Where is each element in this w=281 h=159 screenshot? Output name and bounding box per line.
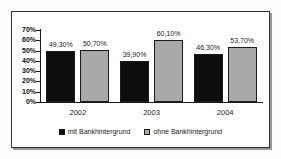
y-axis-tick bbox=[36, 40, 40, 41]
x-axis-category-label-2003: 2003 bbox=[115, 108, 189, 117]
bar-2003-series1 bbox=[154, 40, 183, 102]
bar-2004-series0 bbox=[194, 54, 223, 102]
legend-label: ohne Bankhintergrund bbox=[153, 128, 222, 136]
y-axis-tick-label: 10% bbox=[6, 88, 36, 95]
bar-value-label: 50,70% bbox=[76, 40, 113, 48]
bar-value-label: 46,30% bbox=[190, 44, 227, 52]
chart-legend: mit Bankhintergrundohne Bankhintergrund bbox=[0, 128, 281, 136]
legend-label: mit Bankhintergrund bbox=[68, 128, 131, 136]
y-axis-tick bbox=[36, 61, 40, 62]
legend-item-0[interactable]: mit Bankhintergrund bbox=[59, 128, 131, 136]
x-axis-category-label-2002: 2002 bbox=[41, 108, 115, 117]
legend-item-1[interactable]: ohne Bankhintergrund bbox=[144, 128, 222, 136]
bar-2002-series1 bbox=[80, 50, 109, 102]
x-axis-category-label-2004: 2004 bbox=[188, 108, 262, 117]
y-axis-tick-label: 0% bbox=[6, 98, 36, 105]
bar-value-label: 49,30% bbox=[42, 41, 79, 49]
gray-square-swatch bbox=[144, 129, 150, 135]
y-axis-tick bbox=[36, 51, 40, 52]
y-axis-tick-label: 50% bbox=[6, 47, 36, 54]
y-axis-tick bbox=[36, 71, 40, 72]
bar-2003-series0 bbox=[120, 61, 149, 102]
y-axis-tick bbox=[36, 81, 40, 82]
y-axis-tick bbox=[36, 30, 40, 31]
bar-2002-series0 bbox=[46, 51, 75, 102]
bar-2004-series1 bbox=[228, 47, 257, 102]
x-axis-line bbox=[40, 102, 263, 103]
black-square-swatch bbox=[59, 129, 65, 135]
y-axis-tick bbox=[36, 92, 40, 93]
y-axis-tick-label: 40% bbox=[6, 57, 36, 64]
bar-value-label: 60,10% bbox=[150, 30, 187, 38]
y-axis-tick-label: 20% bbox=[6, 77, 36, 84]
bar-value-label: 39,90% bbox=[116, 51, 153, 59]
y-axis-tick-label: 60% bbox=[6, 36, 36, 43]
y-axis-tick-label: 30% bbox=[6, 67, 36, 74]
chart-container: 0%10%20%30%40%50%60%70% 49,30%50,70%39,9… bbox=[0, 0, 281, 159]
bar-value-label: 53,70% bbox=[224, 37, 261, 45]
y-axis-tick bbox=[36, 102, 40, 103]
y-axis-tick-label: 70% bbox=[6, 26, 36, 33]
